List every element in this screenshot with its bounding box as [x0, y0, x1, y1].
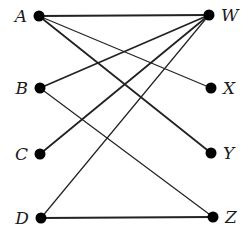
node-a: [34, 11, 45, 22]
node-b: [35, 83, 46, 94]
labels-group: ABCDWXYZ: [13, 5, 240, 228]
node-w: [204, 10, 215, 21]
node-label-a: A: [13, 6, 27, 26]
node-label-d: D: [14, 208, 29, 228]
node-label-y: Y: [223, 143, 236, 163]
node-d: [36, 213, 47, 224]
node-c: [35, 149, 46, 160]
edge-d-z: [41, 217, 213, 218]
node-z: [208, 212, 219, 223]
node-x: [206, 83, 217, 94]
node-label-c: C: [15, 144, 28, 164]
node-label-z: Z: [224, 207, 238, 227]
node-y: [206, 148, 217, 159]
node-label-x: X: [221, 78, 236, 98]
edge-a-w: [39, 15, 209, 16]
node-label-w: W: [221, 5, 240, 25]
edge-b-z: [40, 88, 213, 217]
node-label-b: B: [15, 78, 29, 98]
nodes-group: [34, 10, 219, 224]
bipartite-graph: ABCDWXYZ: [0, 0, 252, 243]
edge-d-w: [41, 15, 209, 218]
edges-group: [39, 15, 213, 218]
